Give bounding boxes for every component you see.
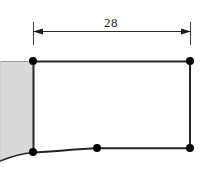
node-bottom-mid bbox=[93, 144, 101, 152]
node-bottom-right bbox=[186, 144, 194, 152]
support-wall bbox=[0, 61, 33, 161]
node-top-right bbox=[186, 57, 194, 65]
dimension-arrow-right bbox=[181, 29, 191, 35]
node-bottom-left bbox=[29, 148, 37, 156]
node-top-left bbox=[29, 57, 37, 65]
diagram-canvas: 28 bbox=[0, 0, 206, 172]
bottom-curved-member bbox=[33, 148, 190, 152]
frame-nodes bbox=[29, 57, 194, 156]
structural-frame-diagram bbox=[0, 0, 206, 172]
support-wall-fill bbox=[0, 61, 33, 161]
dimension-arrow-left bbox=[33, 29, 43, 35]
dimension-label-28: 28 bbox=[104, 16, 118, 29]
